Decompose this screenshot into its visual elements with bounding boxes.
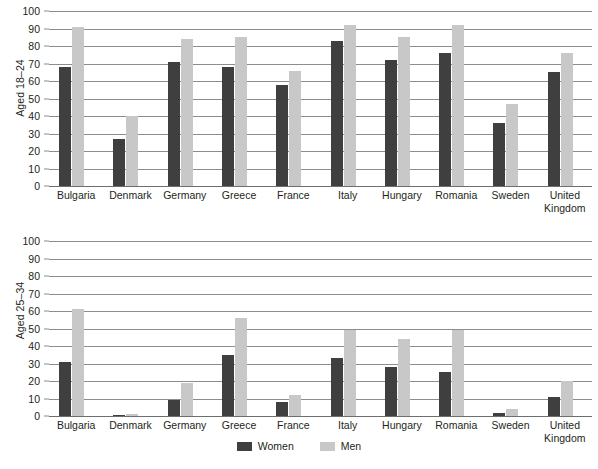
bar-group	[375, 241, 429, 416]
bar-women	[331, 41, 343, 186]
bar-group	[321, 241, 375, 416]
bar-group	[266, 241, 320, 416]
bar-women	[493, 413, 505, 417]
legend-swatch-men-icon	[320, 442, 335, 451]
bar-men	[344, 330, 356, 416]
bar-men	[181, 39, 193, 186]
y-tick-label: 0	[34, 410, 40, 422]
x-axis-line	[49, 186, 592, 187]
bar-group	[429, 241, 483, 416]
y-axis-ticks-top: 0102030405060708090100	[0, 11, 44, 186]
bar-women	[385, 60, 397, 186]
y-tick-label: 0	[34, 180, 40, 192]
y-tick-label: 40	[28, 110, 40, 122]
y-tick-label: 30	[28, 358, 40, 370]
bar-women	[59, 362, 71, 416]
bar-men	[506, 104, 518, 186]
bar-men	[126, 414, 138, 416]
bar-group	[483, 11, 537, 186]
bar-men	[181, 383, 193, 416]
plot-area-top	[49, 11, 592, 186]
bar-group	[158, 241, 212, 416]
bar-men	[398, 339, 410, 416]
bar-group	[321, 11, 375, 186]
bar-men	[561, 53, 573, 186]
legend-label-men: Men	[341, 440, 361, 452]
y-tick-label: 70	[28, 288, 40, 300]
bar-women	[113, 139, 125, 186]
y-tick-label: 80	[28, 40, 40, 52]
y-axis-ticks-bottom: 0102030405060708090100	[0, 241, 44, 416]
bar-women	[439, 372, 451, 416]
bar-men	[452, 25, 464, 186]
bar-women	[59, 67, 71, 186]
bar-women	[385, 367, 397, 416]
bar-group	[375, 11, 429, 186]
bar-men	[126, 116, 138, 186]
bar-men	[398, 37, 410, 186]
legend-item-men: Men	[320, 440, 361, 452]
y-tick-label: 60	[28, 75, 40, 87]
bar-group	[266, 11, 320, 186]
bar-men	[72, 27, 84, 186]
bar-women	[439, 53, 451, 186]
y-tick-label: 90	[28, 23, 40, 35]
bar-men	[235, 318, 247, 416]
bar-men	[289, 71, 301, 187]
bar-group	[49, 241, 103, 416]
y-tick-label: 100	[22, 235, 40, 247]
bar-group	[538, 241, 592, 416]
bar-group	[212, 241, 266, 416]
bar-men	[561, 381, 573, 416]
bar-group	[538, 11, 592, 186]
bar-group	[103, 241, 157, 416]
bar-group	[103, 11, 157, 186]
legend-item-women: Women	[237, 440, 294, 452]
y-tick-label: 90	[28, 253, 40, 265]
y-tick-label: 80	[28, 270, 40, 282]
y-tick-label: 20	[28, 375, 40, 387]
y-tick-label: 10	[28, 393, 40, 405]
bar-men	[506, 409, 518, 416]
legend-swatch-women-icon	[237, 442, 252, 451]
y-tick-label: 100	[22, 5, 40, 17]
bar-women	[548, 72, 560, 186]
bar-men	[289, 395, 301, 416]
y-tick-label: 50	[28, 93, 40, 105]
x-axis-label: United Kingdom	[532, 189, 598, 214]
bar-group	[158, 11, 212, 186]
bar-women	[548, 397, 560, 416]
bar-men	[452, 330, 464, 416]
y-tick-label: 70	[28, 58, 40, 70]
bar-women	[331, 358, 343, 416]
chart-panel-aged-25-34: Aged 25–34 0102030405060708090100 Bulgar…	[0, 226, 598, 426]
bar-women	[276, 402, 288, 416]
legend-label-women: Women	[258, 440, 294, 452]
bar-men	[235, 37, 247, 186]
y-tick-label: 40	[28, 340, 40, 352]
bar-women	[222, 355, 234, 416]
bar-group	[212, 11, 266, 186]
y-tick-label: 10	[28, 163, 40, 175]
bar-women	[222, 67, 234, 186]
bar-series-top	[49, 11, 592, 186]
bar-group	[49, 11, 103, 186]
y-tick-label: 50	[28, 323, 40, 335]
bar-women	[113, 415, 125, 416]
bar-women	[276, 85, 288, 187]
chart-legend: Women Men	[0, 440, 598, 452]
bar-series-bottom	[49, 241, 592, 416]
bar-women	[168, 62, 180, 186]
y-tick-label: 60	[28, 305, 40, 317]
y-tick-label: 30	[28, 128, 40, 140]
bar-group	[483, 241, 537, 416]
bar-men	[344, 25, 356, 186]
bar-women	[168, 400, 180, 416]
x-axis-line	[49, 416, 592, 417]
y-tick-label: 20	[28, 145, 40, 157]
caption-cut-off	[0, 463, 598, 469]
bar-women	[493, 123, 505, 186]
bar-men	[72, 309, 84, 416]
figure: Aged 18–24 0102030405060708090100 Bulgar…	[0, 0, 598, 469]
plot-area-bottom	[49, 241, 592, 416]
